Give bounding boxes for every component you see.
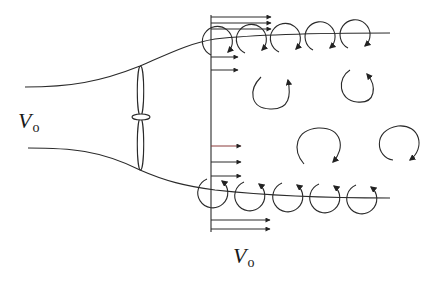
eddy-icon	[253, 77, 289, 109]
tip-vortex-icon	[347, 185, 377, 214]
tip-vortex-icon	[235, 182, 265, 211]
tip-vortex-icon	[340, 20, 370, 48]
eddy-icon	[297, 128, 340, 164]
tip-vortex-icon	[305, 22, 335, 50]
wake-eddies	[253, 70, 419, 164]
lower-streamline	[28, 148, 390, 198]
tip-vortex-icon	[273, 183, 303, 212]
upper-streamline	[25, 33, 390, 87]
tip-vortex-icon	[198, 179, 228, 208]
velocity-profile-arrows	[211, 17, 271, 229]
upstream-velocity-label: Vo	[18, 110, 39, 135]
rotor-icon	[132, 66, 150, 170]
tip-vortex-icon	[310, 184, 340, 213]
tip-vortex-icon	[270, 23, 300, 52]
wake-velocity-label: Vo	[233, 245, 254, 270]
eddy-icon	[341, 70, 373, 102]
bottom-tip-vortices	[198, 179, 377, 214]
eddy-icon	[379, 126, 419, 160]
diagram-canvas	[0, 0, 446, 286]
wake-diagram: Vo Vo	[0, 0, 446, 286]
